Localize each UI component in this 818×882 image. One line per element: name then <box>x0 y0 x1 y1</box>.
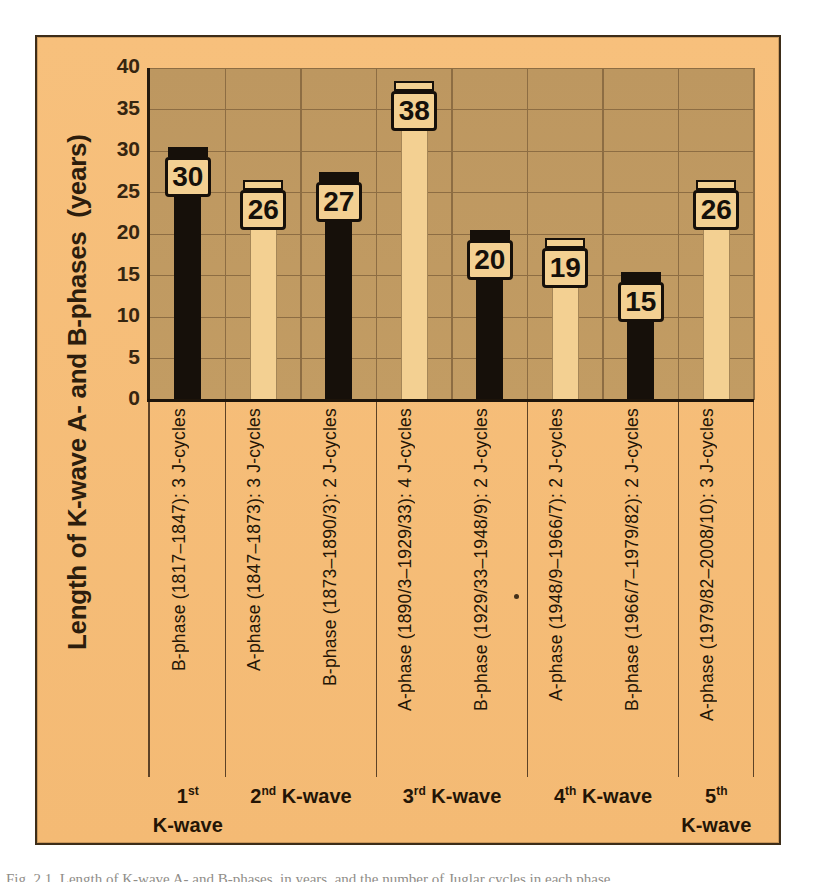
ordinal-suffix: st <box>188 784 199 798</box>
group-separator-line <box>678 402 680 777</box>
group-word-line: K-wave <box>641 811 791 840</box>
bar-cap <box>470 230 510 240</box>
bar-value-label: 20 <box>467 240 513 280</box>
y-axis-tick-labels: 4035302520151050 <box>92 0 140 420</box>
plot-area: 3026273820191526 <box>150 68 754 400</box>
group-separator-line <box>527 402 529 777</box>
group-separator-line <box>376 402 378 777</box>
figure-caption-clipped: Fig. 2.1. Length of K-wave A- and B-phas… <box>6 871 818 882</box>
bar-value-label: 15 <box>618 282 664 322</box>
group-label: 3rd K-wave <box>377 782 527 811</box>
category-separator-line <box>602 68 604 400</box>
bar-cap <box>621 272 661 282</box>
category-separator-line <box>225 68 227 400</box>
group-label: 5thK-wave <box>641 782 791 840</box>
y-axis-title: Length of K-wave A- and B-phases (years) <box>60 50 94 650</box>
bar-column-aphase <box>401 85 428 400</box>
y-tick-label-0: 0 <box>92 386 140 414</box>
y-tick-label-30: 30 <box>92 137 140 165</box>
group-word-line: K-wave <box>113 811 263 840</box>
bar-category-label: A-phase (1948/9–1966/7): 2 J-cycles <box>546 408 567 701</box>
bar-value-label: 38 <box>391 91 437 131</box>
bar-value-label: 26 <box>693 190 739 230</box>
bar-value-label: 19 <box>542 248 588 288</box>
y-axis-line <box>147 68 150 401</box>
bar-category-label: B-phase (1966/7–1979/82): 2 J-cycles <box>622 408 643 711</box>
category-label-strip: B-phase (1817–1847): 3 J-cyclesA-phase (… <box>150 402 754 777</box>
figure-root: Length of K-wave A- and B-phases (years)… <box>0 0 818 882</box>
category-separator-line <box>678 68 680 400</box>
ordinal-suffix: rd <box>414 784 426 798</box>
bar-cap <box>394 81 434 91</box>
category-separator-line <box>753 68 755 400</box>
y-tick-label-5: 5 <box>92 345 140 373</box>
bar-category-label: B-phase (1817–1847): 3 J-cycles <box>169 408 190 671</box>
bar-value-label: 30 <box>165 157 211 197</box>
category-separator-line <box>527 68 529 400</box>
print-dot-artifact <box>514 594 519 599</box>
group-label: 2nd K-wave <box>226 782 376 811</box>
y-tick-label-35: 35 <box>92 96 140 124</box>
bar-cap <box>243 180 283 190</box>
bar-cap <box>319 172 359 182</box>
y-tick-label-40: 40 <box>92 54 140 82</box>
bar-category-label: B-phase (1929/33–1948/9): 2 J-cycles <box>471 408 492 711</box>
group-ordinal-line: 3rd K-wave <box>377 782 527 811</box>
bar-category-label: A-phase (1847–1873): 3 J-cycles <box>244 408 265 671</box>
category-separator-line <box>451 68 453 400</box>
y-tick-label-10: 10 <box>92 303 140 331</box>
kwave-group-labels-row: 1stK-wave2nd K-wave3rd K-wave4th K-wave5… <box>150 782 754 844</box>
category-separator-line <box>376 68 378 400</box>
group-ordinal-line: 5th <box>641 782 791 811</box>
bar-value-label: 26 <box>240 190 286 230</box>
bar-category-label: A-phase (1979/82–2008/10): 3 J-cycles <box>697 408 718 721</box>
bar-cap <box>168 147 208 157</box>
bar-cap <box>545 238 585 248</box>
y-tick-label-20: 20 <box>92 220 140 248</box>
y-tick-label-15: 15 <box>92 262 140 290</box>
category-separator-line <box>300 68 302 400</box>
group-separator-line <box>753 402 755 777</box>
bar-value-label: 27 <box>316 182 362 222</box>
ordinal-suffix: th <box>716 784 727 798</box>
bar-category-label: A-phase (1890/3–1929/33): 4 J-cycles <box>395 408 416 711</box>
ordinal-suffix: th <box>565 784 576 798</box>
bar-cap <box>696 180 736 190</box>
bar-category-label: B-phase (1873–1890/3): 2 J-cycles <box>320 408 341 686</box>
group-separator-line <box>225 402 227 777</box>
y-tick-label-25: 25 <box>92 179 140 207</box>
group-ordinal-line: 2nd K-wave <box>226 782 376 811</box>
ordinal-suffix: nd <box>261 784 276 798</box>
